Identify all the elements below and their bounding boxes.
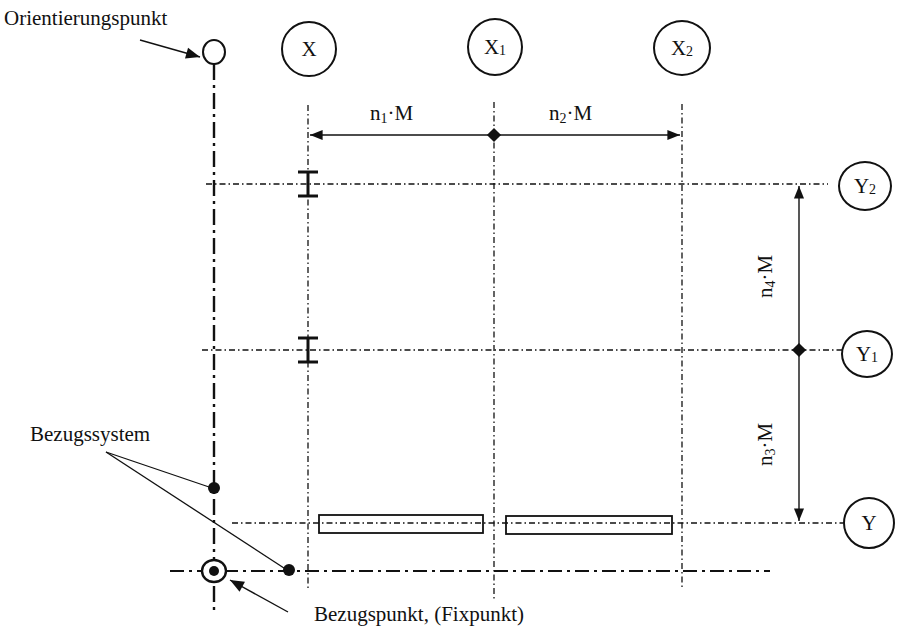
axis-bubble-label: X [301, 37, 316, 62]
dimension-label-n4: n4·M [755, 238, 779, 298]
orientation-point-label: Orientierungspunkt [4, 8, 167, 29]
axis-bubble-label: Y [861, 511, 876, 536]
axis-bubble-x1: X1 [467, 18, 523, 76]
reference-point-symbol [202, 560, 226, 582]
dimension-label-n3: n3·M [755, 406, 779, 466]
axis-bubble-label: Y [854, 174, 869, 199]
dim-sub: 4 [763, 281, 778, 288]
dim-n: n [753, 456, 777, 467]
dimension-label-n2: n2·M [549, 103, 592, 124]
dim-n: n [370, 101, 381, 125]
dim-sub: 3 [763, 449, 778, 456]
diagram-canvas [0, 0, 906, 644]
dimension-line-horizontal [310, 128, 680, 142]
reference-grid-diagram: Orientierungspunkt Bezugssystem Bezugspu… [0, 0, 906, 644]
reference-system-label: Bezugssystem [30, 424, 150, 445]
reference-point-label: Bezugspunkt, (Fixpunkt) [314, 604, 524, 625]
dim-n: n [753, 288, 777, 299]
axis-bubble-subscript: 1 [499, 43, 506, 59]
axis-bubble-y1: Y1 [841, 330, 893, 378]
dimension-label-n1: n1·M [370, 103, 413, 124]
dimension-line-vertical [792, 186, 806, 521]
orientation-point-symbol [203, 40, 225, 64]
dim-sub: 2 [560, 111, 567, 126]
axis-bubble-label: Y [856, 342, 871, 367]
beam-2 [506, 516, 672, 534]
dim-rest: ·M [388, 101, 414, 125]
dim-rest: ·M [567, 101, 593, 125]
axis-bubble-label: X [671, 36, 686, 61]
dim-rest: ·M [753, 423, 777, 449]
axis-bubble-subscript: 1 [871, 350, 878, 366]
axis-bubble-subscript: 2 [869, 182, 876, 198]
dim-rest: ·M [753, 255, 777, 281]
reference-system-leaders [106, 452, 295, 576]
beam-1 [319, 515, 483, 533]
dim-n: n [549, 101, 560, 125]
axis-bubble-y2: Y2 [838, 161, 892, 211]
axis-bubble-x: X [281, 21, 337, 77]
axis-bubble-subscript: 2 [686, 44, 693, 60]
axis-bubble-x2: X2 [653, 20, 711, 76]
orientation-leader-arrow [140, 40, 200, 57]
reference-point-leader-arrow [230, 580, 288, 612]
axis-bubble-y: Y [843, 497, 895, 549]
dim-sub: 1 [381, 111, 388, 126]
axis-bubble-label: X [484, 35, 499, 60]
